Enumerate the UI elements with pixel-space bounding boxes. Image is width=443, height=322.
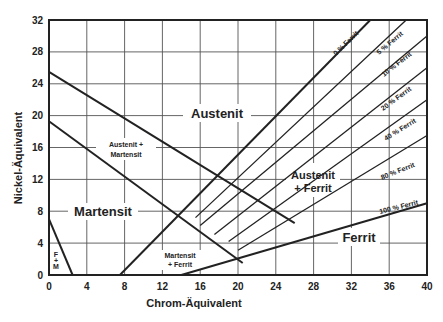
ferrit-100-line <box>181 203 427 275</box>
y-tick: 32 <box>32 15 44 26</box>
region-austenit: Austenit <box>191 106 244 121</box>
y-tick: 4 <box>37 238 43 249</box>
x-tick: 32 <box>346 281 358 292</box>
y-tick: 0 <box>37 270 43 281</box>
y-tick: 24 <box>32 78 44 89</box>
x-tick: 28 <box>308 281 320 292</box>
ferrit-20-label: 20 % Ferrit <box>379 85 413 112</box>
region-ferrit: Ferrit <box>342 230 376 245</box>
x-tick-labels: 0 4 8 12 16 20 24 28 32 36 40 <box>46 281 433 292</box>
y-tick: 16 <box>32 142 44 153</box>
x-tick: 16 <box>195 281 207 292</box>
y-tick: 12 <box>32 174 44 185</box>
x-tick: 0 <box>46 281 52 292</box>
ferrit-40-label: 40 % Ferrit <box>383 117 418 142</box>
y-axis-title: Nickel-Äquivalent <box>12 112 24 205</box>
region-martensit-ferrit-line2: + Ferrit <box>168 261 193 268</box>
x-tick: 20 <box>232 281 244 292</box>
region-martensit-ferrit-line1: Martensit <box>164 252 196 259</box>
y-tick: 20 <box>32 110 44 121</box>
x-tick: 40 <box>421 281 433 292</box>
region-austenit-martensit-line2: Martensit <box>110 151 142 158</box>
y-tick: 28 <box>32 46 44 57</box>
label-masks <box>68 104 380 270</box>
x-tick: 8 <box>122 281 128 292</box>
x-tick: 12 <box>157 281 169 292</box>
y-tick: 8 <box>37 206 43 217</box>
ferrit-0-label: 0 % Ferrit <box>332 29 360 57</box>
region-austenit-martensit-line1: Austenit + <box>109 141 143 148</box>
x-tick: 4 <box>84 281 90 292</box>
schaeffler-diagram: 0 4 8 12 16 20 24 28 32 0 4 8 12 16 20 2… <box>0 0 443 322</box>
x-tick: 36 <box>384 281 396 292</box>
region-martensit: Martensit <box>74 204 132 219</box>
x-tick: 24 <box>270 281 282 292</box>
x-axis-title: Chrom-Äquivalent <box>146 297 242 309</box>
y-tick-labels: 0 4 8 12 16 20 24 28 32 <box>32 15 44 281</box>
ferrit-80-label: 80 % Ferrit <box>380 161 416 181</box>
ferrit-10-label: 10 % Ferrit <box>380 50 413 78</box>
region-austenit-ferrit-line1: Austenit <box>291 169 335 181</box>
region-austenit-ferrit-line2: + Ferrit <box>294 182 332 194</box>
region-fm-m: M <box>53 263 59 270</box>
